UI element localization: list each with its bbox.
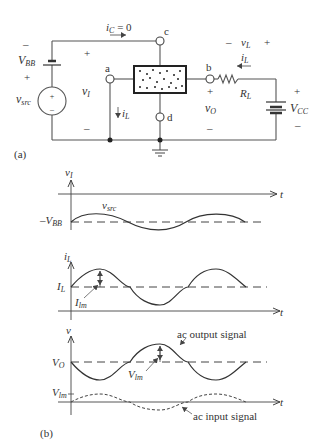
node-d-label: d <box>167 111 173 123</box>
vl-plus: + <box>264 36 270 48</box>
panel-b-label: (b) <box>40 427 53 440</box>
junction-dot-d <box>158 138 163 143</box>
vlm-tick-label: Vlm <box>52 386 67 400</box>
vbb-label: VBB <box>18 53 35 68</box>
vi-plus: + <box>84 47 90 59</box>
vo-label: vO <box>205 101 216 116</box>
vi-x-label: t <box>280 188 284 200</box>
il-left-label: iL <box>122 107 130 121</box>
plot-vi: vI t –VBB vsrc <box>39 166 284 230</box>
node-a-label: a <box>105 62 110 74</box>
vl-minus: – <box>225 36 232 48</box>
v-x-label: t <box>280 396 284 408</box>
plot-il: iL t IL Ilm <box>56 250 284 320</box>
vo-baseline-label: VO <box>52 356 65 370</box>
il-baseline-label: IL <box>56 280 66 294</box>
battery-vbb <box>43 61 61 65</box>
vlm-pointer-icon <box>146 358 158 371</box>
vi-curve-label: vsrc <box>102 199 117 213</box>
battery-vcc <box>266 102 286 113</box>
ilm-label: Ilm <box>74 296 87 310</box>
resistor-rl <box>218 75 238 83</box>
vl-label: vL <box>241 36 251 50</box>
vcc-minus: – <box>294 119 301 131</box>
terminal-c <box>156 37 164 45</box>
vi-y-label: vI <box>65 166 73 180</box>
input-pointer-icon <box>182 407 192 414</box>
il-right-label: iL <box>241 51 249 65</box>
v-y-label: v <box>66 324 71 336</box>
ground-icon <box>152 150 168 156</box>
vbb-minus: – <box>22 38 29 50</box>
figure-canvas: + – iC = 0 c a b d – VBB + vsrc + vI – i… <box>0 0 316 445</box>
node-c-label: c <box>164 25 169 37</box>
vi-label: vI <box>82 84 90 99</box>
vlm-amp-label: Vlm <box>128 368 143 382</box>
terminal-b <box>206 75 214 83</box>
vcc-label: VCC <box>290 101 309 116</box>
vo-plus: + <box>207 85 213 97</box>
ic-label: iC = 0 <box>106 21 132 35</box>
panel-a-label: (a) <box>14 148 27 161</box>
plot-v: v t VO Vlm Vlm ac output signal ac input… <box>52 324 284 422</box>
vo-minus: – <box>206 122 213 134</box>
node-b-label: b <box>206 61 212 73</box>
vcc-plus: + <box>294 85 300 97</box>
vi-minus: – <box>83 122 90 134</box>
il-y-label: iL <box>64 250 72 264</box>
vi-baseline-label: –VBB <box>39 214 62 228</box>
ac-output-annotation: ac output signal <box>177 328 247 340</box>
terminal-d <box>156 113 164 121</box>
vbb-plus: + <box>24 71 30 83</box>
vsrc-label: vsrc <box>16 92 31 107</box>
rl-label: RL <box>239 87 252 101</box>
vsrc-plus: + <box>50 92 55 101</box>
junction-dot-a <box>108 138 113 143</box>
ac-input-annotation: ac input signal <box>193 410 257 422</box>
terminal-a <box>106 75 114 83</box>
il-x-label: t <box>280 306 284 318</box>
